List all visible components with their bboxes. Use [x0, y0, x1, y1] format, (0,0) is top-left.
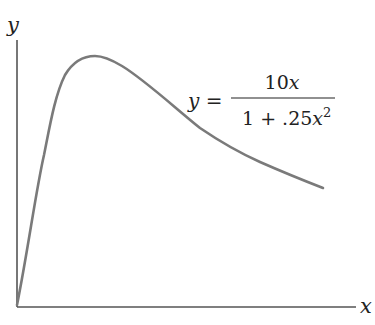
- function-curve: [17, 56, 323, 305]
- equation-lhs: y =: [187, 89, 222, 113]
- equation-numerator: 10x: [265, 71, 300, 93]
- y-axis-label: y: [6, 13, 20, 37]
- equation: y = 10x 1 + .25x2: [187, 71, 335, 129]
- x-axis-label: x: [360, 294, 372, 318]
- graph: y x y = 10x 1 + .25x2: [0, 0, 375, 325]
- equation-denominator: 1 + .25x2: [242, 105, 331, 129]
